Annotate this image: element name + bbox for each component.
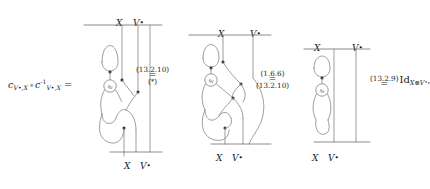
diagram-2-bottom-label-x: X — [216, 146, 222, 165]
identity-subscript: X⊗V• — [410, 79, 428, 87]
diagram-3-graph: ηV — [300, 46, 380, 160]
lhs-formula: cV•,X∘c-1V•,X= — [8, 78, 72, 91]
reference-2: (1.6.6) = (13.2.10) — [256, 70, 289, 89]
diagram-3-bottom-label-x: X — [312, 146, 318, 165]
diagram-1-bottom-label-vstar: V• — [140, 154, 151, 173]
diagram-2-graph: ηV — [185, 32, 285, 164]
lhs-compose-operator: ∘ — [29, 81, 33, 90]
diagram-1-graph: ηV — [80, 22, 170, 168]
reference-3-and-identity: (13.2.9) = IdX⊗V•, — [370, 74, 430, 88]
identity-symbol: Id — [399, 74, 409, 85]
lhs-c-subscript-2: V•,X — [46, 84, 61, 91]
diagram-2-bottom-label-vstar: V• — [232, 146, 243, 165]
reference-1: (13.2.10) = (*) — [136, 66, 169, 85]
reference-2-label-bottom: (13.2.10) — [256, 82, 289, 90]
lhs-c-subscript: V•,X — [13, 84, 28, 91]
diagram-1-bottom-label-x: X — [124, 154, 130, 173]
diagram-3-bottom-label-vstar: V• — [328, 146, 339, 165]
lhs-equals-sign: = — [64, 79, 72, 90]
reference-1-second: (*) — [136, 78, 169, 86]
reference-3: (13.2.9) = — [370, 75, 398, 88]
